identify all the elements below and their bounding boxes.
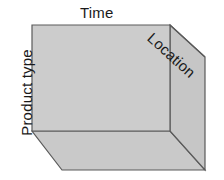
axis-label-time: Time [80, 5, 114, 20]
axis-label-product-type: Product type [19, 41, 34, 145]
diagram-canvas: Time Product type Location [0, 0, 224, 180]
